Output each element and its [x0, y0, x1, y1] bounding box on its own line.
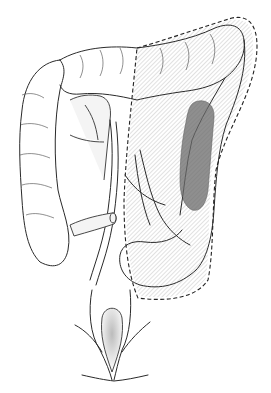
terminal-ileum	[70, 213, 116, 236]
ascending-haustra	[20, 94, 54, 218]
rectal-ampulla	[101, 308, 122, 372]
ileum-opening	[110, 213, 116, 223]
middle-colic-vessels	[70, 95, 111, 180]
ascending-colon	[20, 60, 69, 266]
colon-resection-diagram	[0, 0, 271, 393]
